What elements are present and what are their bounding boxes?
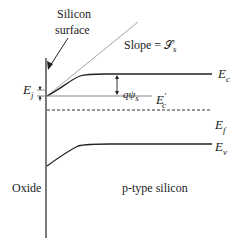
surface-pointer-line <box>50 38 68 66</box>
silicon-surface-label-line1: Silicon <box>57 8 91 20</box>
silicon-surface-label-line2: surface <box>55 24 90 36</box>
band-diagram-graphics <box>0 0 243 250</box>
slope-label: Slope = 𝒮s <box>124 39 177 54</box>
valence-band-curve <box>47 144 212 166</box>
oxide-label: Oxide <box>12 182 41 194</box>
ej-arrow-down-icon <box>39 87 42 90</box>
ec-label: Ec <box>218 67 230 84</box>
qpsi-arrow-up-icon <box>115 75 119 79</box>
ev-label: Ev <box>215 140 227 157</box>
band-diagram: Silicon surface Slope = 𝒮s Ej qψs Ec E′c… <box>0 0 243 250</box>
p-type-silicon-label: p-type silicon <box>122 182 188 194</box>
ec-prime-label: E′c <box>156 92 166 110</box>
qpsi-label: qψs <box>123 89 139 103</box>
ej-label: Ej <box>23 83 33 100</box>
qpsi-arrow-down-icon <box>115 91 119 95</box>
ef-label: Ef <box>215 118 225 135</box>
